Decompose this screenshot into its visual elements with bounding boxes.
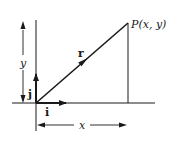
y-arrowhead-down bbox=[21, 95, 26, 103]
unit-j-label: j bbox=[27, 88, 32, 101]
y-arrowhead-up bbox=[21, 21, 26, 29]
unit-i-label: i bbox=[45, 106, 49, 119]
x-arrowhead-right bbox=[119, 123, 127, 128]
x-arrowhead-left bbox=[37, 123, 45, 128]
y-dim-label: y bbox=[19, 57, 27, 70]
position-vector-diagram: P(x, y) r j i y x bbox=[0, 0, 169, 142]
vector-r-label: r bbox=[78, 47, 84, 60]
x-dim-label: x bbox=[79, 119, 86, 132]
point-p-label: P(x, y) bbox=[130, 18, 166, 31]
